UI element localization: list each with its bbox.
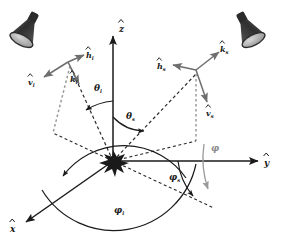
k-hat-i-label-sub: i	[76, 79, 78, 85]
k-hat-s-label-sub: s	[226, 49, 229, 55]
v-hat-s-arrow	[196, 70, 207, 102]
x-axis-label: x	[9, 219, 16, 234]
z-hat-caret	[118, 20, 123, 23]
incident-projection-drop	[53, 66, 70, 133]
phi-s-label: φs	[169, 172, 180, 183]
scattering-geometry-diagram: z y x hi vi	[0, 0, 283, 241]
scattered-ground-projection	[113, 141, 196, 161]
h-hat-i-arrow	[68, 55, 84, 62]
z-axis-label: z	[118, 20, 125, 35]
x-axis-label-text: x	[9, 224, 16, 234]
theta-s-label: θs	[126, 111, 135, 122]
h-hat-i-label-sub: i	[92, 55, 94, 61]
svg-text:z: z	[118, 24, 125, 34]
svg-text:vs: vs	[206, 108, 214, 119]
h-hat-s-label-sub: s	[163, 66, 166, 72]
svg-text:ks: ks	[220, 44, 229, 55]
x-axis-line	[26, 161, 113, 222]
v-hat-i-label-sub: i	[33, 82, 35, 88]
v-hat-s-label: vs	[206, 105, 214, 120]
phi-label-text: φ	[211, 143, 220, 153]
svg-text:y: y	[263, 158, 270, 168]
figure-canvas: z y x hi vi	[0, 0, 283, 241]
theta-s-label-sub: s	[132, 116, 135, 122]
v-hat-i-label: vi	[28, 74, 35, 89]
phi-i-label-sub: i	[122, 210, 124, 216]
phi-s-label-sub: s	[177, 177, 180, 183]
theta-i-label: θi	[94, 83, 102, 94]
axis-group	[26, 36, 258, 222]
phi-arc	[203, 144, 208, 189]
phi-label: φ	[211, 143, 220, 153]
k-hat-s-label: ks	[220, 41, 229, 56]
angle-arc-group	[42, 101, 208, 230]
y-axis-label: y	[263, 153, 270, 168]
svg-text:hs: hs	[157, 61, 166, 72]
scatterer-core	[108, 156, 118, 166]
incident-source-cone	[8, 7, 47, 50]
y-hat-caret	[264, 153, 269, 156]
incident-frame-vectors	[44, 55, 84, 84]
h-hat-s-label: hs	[157, 58, 166, 72]
scattering-target	[99, 150, 129, 177]
svg-text:hi: hi	[86, 50, 94, 61]
v-hat-i-arrow	[44, 62, 68, 77]
label-group: z y x hi vi	[9, 20, 270, 235]
theta-i-arc	[86, 101, 113, 110]
scattered-detector-cone	[228, 7, 267, 50]
svg-text:vi: vi	[28, 77, 35, 88]
h-hat-i-label: hi	[86, 47, 94, 62]
h-hat-s-arrow	[173, 65, 196, 70]
phi-i-label: φi	[114, 205, 124, 216]
phi-i-arc-outer	[63, 146, 186, 178]
svg-text:x: x	[9, 224, 16, 234]
y-axis-label-text: y	[263, 158, 270, 168]
scattered-azimuth-base-dashed	[113, 161, 214, 208]
k-hat-s-arrow	[196, 52, 219, 70]
z-axis-label-text: z	[118, 24, 125, 34]
x-hat-caret	[10, 219, 15, 222]
v-hat-s-label-sub: s	[211, 113, 214, 119]
svg-text:ki: ki	[70, 74, 78, 85]
theta-i-label-sub: i	[100, 88, 102, 94]
